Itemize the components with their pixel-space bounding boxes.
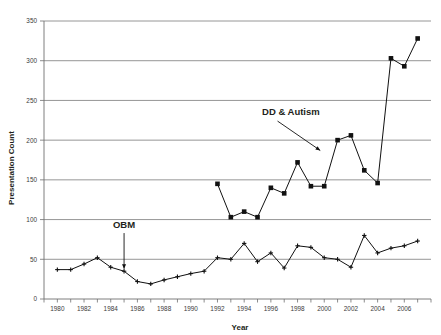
data-point <box>349 265 353 269</box>
data-point <box>402 244 406 248</box>
y-tick-label-150: 150 <box>26 176 37 183</box>
line-chart: 050100150200250300350 198019821984198619… <box>0 0 441 335</box>
data-point <box>295 244 299 248</box>
tick-marks-group <box>40 21 431 303</box>
y-tick-label-350: 350 <box>26 17 37 24</box>
axes-group <box>44 21 431 299</box>
data-point <box>68 267 72 271</box>
data-point <box>175 275 179 279</box>
y-tick-label-200: 200 <box>26 137 37 144</box>
annotation-layer: OBMDD & Autism <box>113 106 320 269</box>
y-tick-label-250: 250 <box>26 97 37 104</box>
annotation-label-obm: OBM <box>113 219 135 230</box>
x-tick-label-1998: 1998 <box>290 305 305 312</box>
data-point <box>149 282 153 286</box>
data-point <box>375 181 380 186</box>
x-tick-label-2006: 2006 <box>397 305 412 312</box>
series-line <box>217 38 417 217</box>
data-point <box>389 246 393 250</box>
x-axis-title: Year <box>232 323 249 332</box>
x-tick-label-1992: 1992 <box>210 305 225 312</box>
chart-container: 050100150200250300350 198019821984198619… <box>0 0 441 335</box>
x-tick-label-1986: 1986 <box>130 305 145 312</box>
x-tick-label-1994: 1994 <box>237 305 252 312</box>
y-tick-labels-group: 050100150200250300350 <box>26 17 37 302</box>
y-tick-label-50: 50 <box>30 256 38 263</box>
data-point <box>309 184 314 189</box>
data-point <box>389 56 394 61</box>
data-point <box>162 278 166 282</box>
x-tick-label-1988: 1988 <box>157 305 172 312</box>
data-point <box>362 168 367 173</box>
data-point <box>55 267 59 271</box>
data-point <box>282 191 287 196</box>
data-point <box>215 182 220 187</box>
series-layer <box>55 36 420 286</box>
y-tick-label-0: 0 <box>33 295 37 302</box>
data-point <box>415 36 420 41</box>
data-point <box>295 160 300 165</box>
annotation-arrowhead <box>315 146 320 150</box>
data-point <box>335 257 339 261</box>
annotation-leader-line <box>278 121 321 150</box>
data-point <box>229 215 234 220</box>
y-tick-label-300: 300 <box>26 57 37 64</box>
data-point <box>322 184 327 189</box>
x-tick-label-2004: 2004 <box>371 305 386 312</box>
x-tick-label-2000: 2000 <box>317 305 332 312</box>
x-tick-label-1996: 1996 <box>264 305 279 312</box>
x-tick-label-1982: 1982 <box>77 305 92 312</box>
annotation-label-dd-autism: DD & Autism <box>262 106 320 117</box>
x-tick-label-1980: 1980 <box>50 305 65 312</box>
y-tick-label-100: 100 <box>26 216 37 223</box>
data-point <box>415 239 419 243</box>
x-tick-label-1984: 1984 <box>104 305 119 312</box>
x-tick-labels-group: 1980198219841986198819901992199419961998… <box>50 305 412 312</box>
gridlines-group <box>44 21 431 259</box>
data-point <box>255 215 260 220</box>
data-point <box>82 262 86 266</box>
data-point <box>269 186 274 191</box>
data-point <box>242 209 247 214</box>
data-point <box>402 64 407 69</box>
x-tick-label-2002: 2002 <box>344 305 359 312</box>
data-point <box>189 271 193 275</box>
data-point <box>349 133 354 138</box>
y-axis-title: Presentation Count <box>7 131 16 205</box>
data-point <box>335 138 340 143</box>
x-tick-label-1990: 1990 <box>184 305 199 312</box>
series-dd-autism <box>215 36 420 219</box>
annotation-arrowhead <box>122 264 126 269</box>
